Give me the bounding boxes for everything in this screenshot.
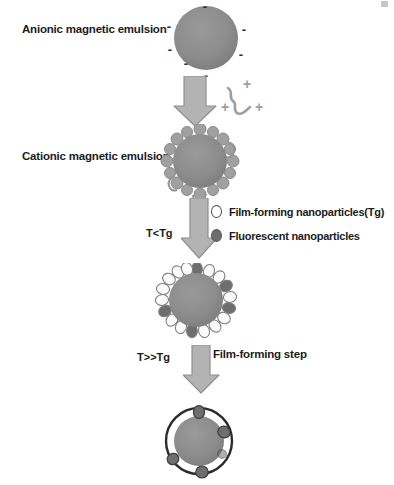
condition-below-tg: T<Tg <box>146 227 173 239</box>
label-film-forming-step: Film-forming step <box>213 348 307 360</box>
hollow-circle-icon <box>211 205 222 218</box>
svg-text:+: + <box>221 99 229 115</box>
svg-text:-: - <box>203 4 207 14</box>
nanoparticle-shell-group <box>151 263 243 343</box>
arrow-cationic-adsorption-group: + + + <box>172 76 287 128</box>
shelled-core-sphere <box>169 273 223 327</box>
bead-light <box>223 291 238 304</box>
bead-light <box>155 294 170 307</box>
condition-above-tg: T>>Tg <box>137 351 170 363</box>
svg-text:-: - <box>239 47 243 62</box>
embedded-particle <box>193 406 204 419</box>
positive-charge-group: + + + <box>221 76 263 115</box>
svg-text:-: - <box>168 42 172 57</box>
svg-text:+: + <box>243 76 251 92</box>
down-arrow-icon <box>183 345 219 393</box>
filled-circle-icon <box>211 229 222 242</box>
legend-item-film-forming: Film-forming nanoparticles(Tg) <box>211 205 384 218</box>
embedded-particle <box>196 466 208 478</box>
legend-label-fluorescent: Fluorescent nanoparticles <box>229 230 360 242</box>
final-core-sphere <box>174 416 224 466</box>
final-film-particle-group <box>158 402 242 482</box>
legend-label-film-forming: Film-forming nanoparticles(Tg) <box>229 206 384 218</box>
cationic-core-sphere <box>173 134 227 188</box>
down-arrow-icon <box>174 76 216 126</box>
scan-artifact <box>381 1 388 7</box>
svg-text:-: - <box>167 19 171 34</box>
diagram-canvas: Anionic magnetic emulsion - - - - - - - <box>0 0 394 485</box>
svg-text:+: + <box>255 99 263 115</box>
embedded-particle <box>218 450 227 458</box>
cationic-emulsion-group <box>157 124 243 204</box>
label-anionic-magnetic-emulsion: Anionic magnetic emulsion <box>22 23 167 35</box>
legend-item-fluorescent: Fluorescent nanoparticles <box>211 229 360 242</box>
anionic-emulsion-group: - - - - - - - <box>155 4 265 80</box>
label-cationic-magnetic-emulsion: Cationic magnetic emulsion <box>22 150 170 162</box>
svg-text:-: - <box>242 22 246 37</box>
svg-text:-: - <box>184 56 188 71</box>
arrow-film-forming <box>183 345 223 395</box>
